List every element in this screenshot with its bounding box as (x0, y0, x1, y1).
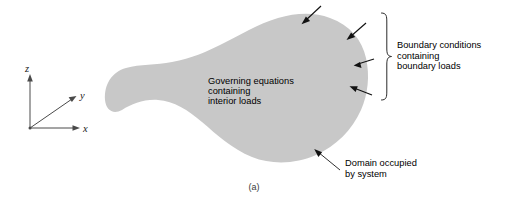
y-axis-line (30, 99, 72, 128)
coordinate-axes: z y x (24, 63, 88, 134)
z-axis-label: z (24, 63, 29, 74)
interior-annotation-line-2: containing (208, 86, 250, 96)
x-axis-arrowhead (73, 125, 81, 131)
boundary-brace (382, 13, 392, 100)
axes-origin-dot (29, 127, 32, 130)
domain-annotation-line-1: Domain occupied (345, 158, 417, 168)
boundary-annotation-line-3: boundary loads (397, 61, 461, 71)
boundary-annotation-line-2: containing (397, 51, 439, 61)
y-axis-arrowhead (69, 96, 77, 102)
domain-annotation-line-2: by system (345, 169, 387, 179)
boundary-conditions-annotation: Boundary conditions containing boundary … (397, 40, 482, 71)
domain-leader-line (318, 152, 340, 170)
interior-annotation-line-3: interior loads (208, 96, 262, 106)
z-axis-arrowhead (27, 74, 33, 82)
figure-container: z y x Governing equations containing int… (0, 0, 508, 202)
interior-annotation-line-1: Governing equations (208, 76, 294, 86)
domain-leader (314, 149, 340, 170)
y-axis-label: y (79, 90, 85, 101)
figure-caption: (a) (249, 182, 260, 192)
x-axis-label: x (82, 123, 88, 134)
domain-annotation: Domain occupied by system (345, 158, 417, 179)
figure-canvas: z y x Governing equations containing int… (0, 0, 508, 202)
boundary-annotation-line-1: Boundary conditions (397, 40, 482, 50)
